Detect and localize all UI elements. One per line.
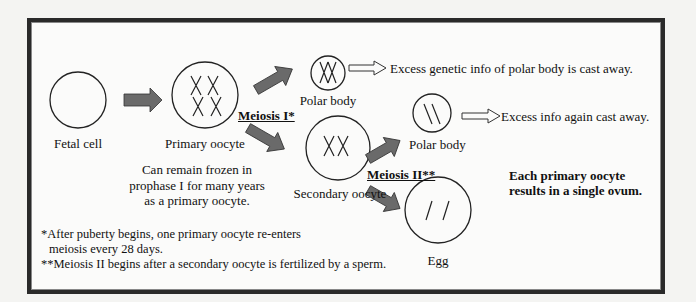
hollow-arrow-1 xyxy=(349,61,386,75)
hollow-arrow-2 xyxy=(462,109,500,123)
meiosis-one-label: Meiosis I* xyxy=(238,108,295,123)
frozen-note: Can remain frozen in prophase I for many… xyxy=(122,162,272,209)
egg-label: Egg xyxy=(418,253,458,268)
fetal-cell-circle xyxy=(50,72,106,128)
summary-note: Each primary oocyte results in a single … xyxy=(509,168,642,198)
excess-info-2-text: Excess info again cast away. xyxy=(501,109,649,124)
secondary-oocyte-circle xyxy=(306,116,370,180)
primary-oocyte-label: Primary oocyte xyxy=(160,136,250,151)
meiosis-two-label: Meiosis II** xyxy=(367,167,435,182)
arrow-to-polar-body-1 xyxy=(251,59,298,99)
excess-info-1-text: Excess genetic info of polar body is cas… xyxy=(390,61,633,76)
primary-oocyte-circle xyxy=(172,62,238,128)
polar-body-1-circle xyxy=(311,56,345,90)
arrow-to-polar-body-2 xyxy=(363,131,406,169)
polar-body-2-label: Polar body xyxy=(409,137,466,152)
egg-circle xyxy=(405,177,471,243)
secondary-oocyte-label: Secondary oocyte xyxy=(290,186,390,201)
fetal-cell-label: Fetal cell xyxy=(38,136,118,151)
footnote-1: *After puberty begins, one primary oocyt… xyxy=(41,227,301,257)
arrow-fetal-to-primary xyxy=(124,88,162,112)
polar-body-1-label: Polar body xyxy=(298,93,358,108)
polar-body-2-circle xyxy=(413,94,451,132)
footnote-2: **Meiosis II begins after a secondary oo… xyxy=(41,257,386,272)
